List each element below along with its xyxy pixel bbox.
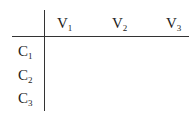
- horizontal-divider: [12, 36, 189, 37]
- column-header-v3: V3: [166, 15, 181, 36]
- row-header-c1: C1: [18, 43, 33, 64]
- vertical-divider: [44, 10, 45, 111]
- column-header-v1: V1: [57, 15, 72, 36]
- row-header-c3: C3: [18, 90, 33, 111]
- column-header-v2: V2: [112, 15, 127, 36]
- row-header-c2: C2: [18, 67, 33, 88]
